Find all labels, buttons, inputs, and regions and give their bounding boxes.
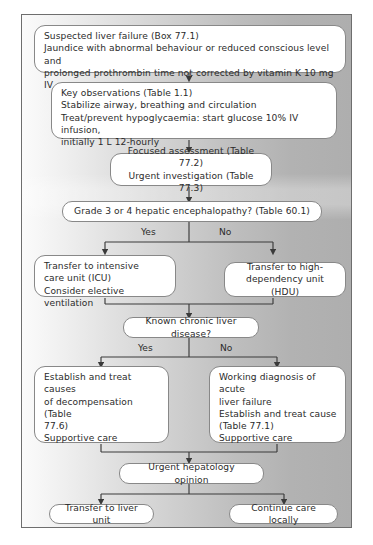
node-decompensation: Establish and treat causes of decompensa…: [34, 366, 169, 443]
node-encephalopathy-decision: Grade 3 or 4 hepatic encephalopathy? (Ta…: [62, 201, 322, 222]
node-acute-liver-failure: Working diagnosis of acute liver failure…: [209, 366, 346, 443]
branch-label-encephalopathy-yes: Yes: [141, 227, 156, 238]
flowchart-panel: Suspected liver failure (Box 77.1) Jaund…: [21, 14, 352, 528]
node-chronic-liver-disease-decision: Known chronic liver disease?: [123, 317, 259, 338]
node-hepatology-opinion: Urgent hepatology opinion: [119, 463, 264, 484]
node-transfer-hdu: Transfer to high- dependency unit (HDU): [224, 262, 346, 297]
branch-label-chronic-no: No: [220, 343, 232, 354]
branch-label-encephalopathy-no: No: [219, 227, 231, 238]
node-suspected-liver-failure: Suspected liver failure (Box 77.1) Jaund…: [34, 25, 346, 73]
node-transfer-icu: Transfer to intensive care unit (ICU) Co…: [34, 255, 176, 297]
flowchart-root: Suspected liver failure (Box 77.1) Jaund…: [0, 0, 373, 545]
node-transfer-liver-unit: Transfer to liver unit: [49, 504, 154, 524]
node-continue-care-locally: Continue care locally: [229, 504, 338, 524]
branch-label-chronic-yes: Yes: [138, 343, 153, 354]
node-key-observations: Key observations (Table 1.1) Stabilize a…: [51, 82, 337, 139]
node-focused-assessment: Focused assessment (Table 77.2) Urgent i…: [110, 153, 272, 186]
